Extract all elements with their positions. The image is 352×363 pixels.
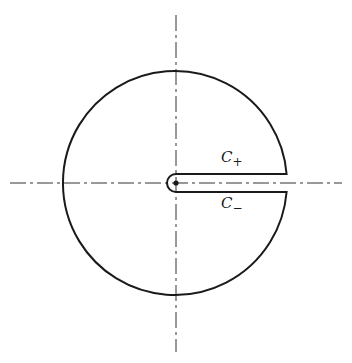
lower-contour-label-base: C [221, 194, 232, 212]
upper-contour-label-subscript: + [232, 155, 242, 169]
keyhole-contour-diagram [0, 0, 352, 363]
origin-point [173, 180, 178, 185]
upper-contour-label: C+ [221, 150, 243, 168]
lower-contour-label-subscript: − [232, 201, 242, 215]
lower-contour-label: C− [221, 196, 243, 214]
upper-contour-label-base: C [221, 148, 232, 166]
